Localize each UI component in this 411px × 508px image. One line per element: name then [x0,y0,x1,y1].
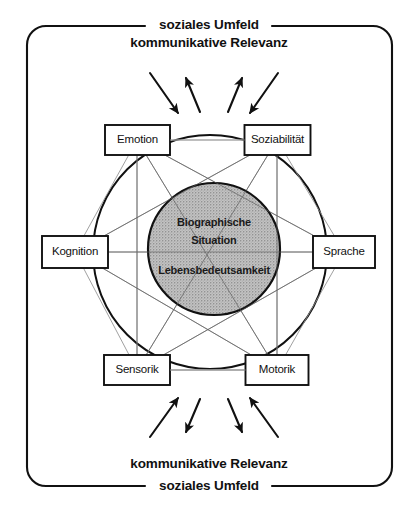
top-caption-line-1: soziales Umfeld [159,18,259,32]
bottom-caption-line-1: kommunikative Relevanz [130,457,287,471]
top-caption-line-2: kommunikative Relevanz [130,36,287,50]
node-label-motorik[interactable]: Motorik [259,364,295,376]
diagram-root: soziales Umfeld kommunikative Relevanz k… [0,0,411,508]
bottom-arrow-4 [250,398,278,437]
bottom-arrow-3 [228,399,242,432]
node-label-sprache[interactable]: Sprache [323,246,364,258]
bottom-arrow-1 [150,398,178,437]
bottom-arrow-2 [186,399,200,432]
arrows-top [150,73,278,113]
node-label-soziabilitaet[interactable]: Soziabilität [251,134,304,146]
top-arrow-4 [250,73,278,113]
node-label-kognition[interactable]: Kognition [52,246,98,258]
core-circle [148,183,280,315]
bottom-caption-line-2: soziales Umfeld [159,479,259,493]
node-label-sensorik[interactable]: Sensorik [115,364,158,376]
top-arrow-2 [186,78,200,112]
top-arrow-1 [150,73,178,113]
core-label-line-1: Biographische [177,217,251,228]
core-label-line-3: Lebensbedeutsamkeit [158,265,270,276]
arrows-bottom [150,398,278,437]
core-label-line-2: Situation [191,235,236,246]
node-label-emotion[interactable]: Emotion [117,134,158,146]
top-arrow-3 [228,78,242,112]
